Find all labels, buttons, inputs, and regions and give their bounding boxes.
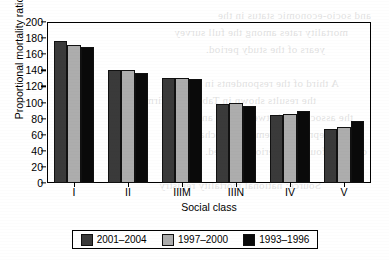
dark-gray-swatch: [81, 234, 93, 246]
legend-item: 2001–2004: [81, 234, 147, 246]
x-tick-label: IIIN: [228, 186, 244, 198]
legend-label: 1993–1996: [259, 234, 309, 245]
bar-group: [324, 22, 364, 183]
bar: [229, 103, 242, 184]
bar-chart: Proportional mortality ratio 02040608010…: [0, 0, 389, 260]
bar: [135, 73, 148, 183]
y-tick-mark: [41, 70, 46, 71]
x-tick-mark: [128, 182, 129, 187]
y-tick-mark: [41, 182, 46, 183]
bars-layer: [47, 22, 371, 183]
bar-group: [108, 22, 148, 183]
y-tick-mark: [41, 54, 46, 55]
y-tick-mark: [41, 166, 46, 167]
bar: [67, 45, 80, 183]
chart-legend: 2001–20041997–20001993–1996: [72, 230, 318, 249]
y-tick-mark: [41, 102, 46, 103]
bar: [297, 111, 310, 183]
bar: [162, 78, 175, 183]
y-axis-tick-marks: [0, 0, 52, 205]
bar: [81, 47, 94, 183]
x-axis-title: Social class: [47, 201, 371, 213]
bar: [216, 104, 229, 183]
bar: [337, 127, 350, 183]
bar-group: [216, 22, 256, 183]
bar: [351, 121, 364, 183]
x-tick-mark: [290, 182, 291, 187]
bar-group: [270, 22, 310, 183]
legend-item: 1993–1996: [243, 234, 309, 246]
bar: [54, 41, 67, 183]
x-tick-label: V: [340, 186, 347, 198]
bar: [283, 114, 296, 183]
bar: [175, 78, 188, 183]
x-tick-mark: [344, 182, 345, 187]
x-tick-mark: [236, 182, 237, 187]
bar: [121, 70, 134, 183]
bar-group: [162, 22, 202, 183]
bar: [270, 115, 283, 183]
legend-item: 1997–2000: [162, 234, 228, 246]
black-swatch: [243, 234, 255, 246]
light-gray-swatch: [162, 234, 174, 246]
x-tick-mark: [74, 182, 75, 187]
x-tick-label: I: [73, 186, 76, 198]
bar: [108, 70, 121, 184]
y-tick-mark: [41, 37, 46, 38]
y-tick-mark: [41, 134, 46, 135]
y-tick-mark: [41, 21, 46, 22]
x-tick-label: IV: [285, 186, 295, 198]
y-tick-mark: [41, 118, 46, 119]
x-tick-label: II: [125, 186, 131, 198]
y-tick-mark: [41, 86, 46, 87]
x-tick-label: IIIM: [173, 186, 191, 198]
bar: [243, 106, 256, 183]
x-axis-tick-labels: IIIIIIMIIINIVV: [47, 186, 371, 202]
bar: [324, 129, 337, 183]
legend-label: 1997–2000: [178, 234, 228, 245]
bar-group: [54, 22, 94, 183]
x-tick-mark: [182, 182, 183, 187]
bar: [189, 79, 202, 183]
y-tick-mark: [41, 150, 46, 151]
legend-label: 2001–2004: [97, 234, 147, 245]
